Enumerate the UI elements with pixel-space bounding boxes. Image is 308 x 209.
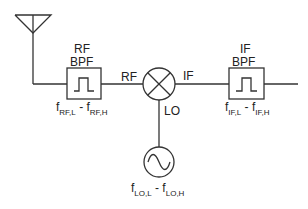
bandpass-filter-icon — [74, 78, 94, 91]
if-freq-separator: - — [241, 100, 252, 114]
mixer-rf-port-label: RF — [121, 71, 137, 83]
rf-bpf-title-line2: BPF — [70, 56, 93, 68]
rf-bpf-frequency-range: fRF,L - fRF,H — [56, 101, 108, 117]
rf-bpf-block — [67, 68, 101, 99]
if-freq-high-subscript: IF,H — [255, 108, 269, 117]
rf-bpf-title-line1: RF — [74, 43, 90, 55]
if-freq-low-subscript: IF,L — [228, 108, 241, 117]
mixer-if-port-label: IF — [183, 70, 194, 82]
lo-freq-low-subscript: LO,L — [134, 189, 151, 198]
if-bpf-block — [229, 68, 264, 99]
rf-freq-high-subscript: RF,H — [90, 108, 108, 117]
mixer-icon — [143, 68, 175, 100]
rf-freq-low-subscript: RF,L — [59, 108, 75, 117]
if-bpf-title-line1: IF — [240, 43, 251, 55]
lo-frequency-range: fLO,L - fLO,H — [131, 182, 184, 198]
antenna-icon — [15, 15, 51, 84]
rf-freq-separator: - — [76, 100, 87, 114]
if-bpf-title-line2: BPF — [232, 56, 255, 68]
if-bpf-frequency-range: fIF,L - fIF,H — [225, 101, 270, 117]
oscillator-icon — [144, 147, 174, 177]
bandpass-filter-icon — [236, 78, 257, 91]
lo-freq-separator: - — [152, 181, 163, 195]
mixer-lo-port-label: LO — [164, 105, 180, 117]
lo-freq-high-subscript: LO,H — [166, 189, 185, 198]
